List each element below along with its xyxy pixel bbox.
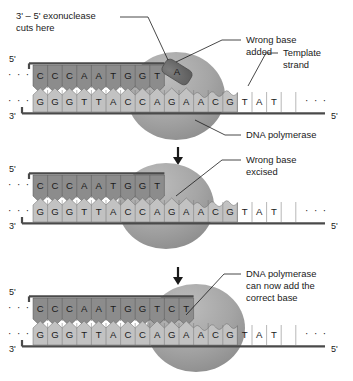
svg-text:C: C	[66, 70, 73, 81]
svg-text:A: A	[183, 329, 190, 340]
label-3prime-bottom-left: 3'	[9, 111, 16, 121]
new-strand-letters-panel-1: C C C A A T G G T	[37, 70, 160, 81]
svg-text:A: A	[110, 329, 117, 340]
panel-wrong-base-added: A C C C A A T G G T G G G T T A C C A G …	[0, 0, 353, 148]
svg-text:A: A	[256, 96, 263, 107]
svg-text:C: C	[212, 96, 219, 107]
left-ellipsis-top: · · ·	[8, 69, 31, 80]
svg-text:C: C	[124, 329, 131, 340]
svg-text:T: T	[154, 303, 160, 314]
svg-text:A: A	[95, 70, 102, 81]
left-ellipsis-bottom: · · ·	[8, 95, 31, 106]
svg-text:G: G	[66, 329, 73, 340]
left-ellipsis-bottom: · · ·	[8, 205, 31, 216]
svg-text:C: C	[124, 206, 131, 217]
panel-wrong-base-excised: C C C A A T G G T G G G T T A C C A G A …	[0, 148, 353, 268]
svg-text:A: A	[256, 329, 263, 340]
svg-text:T: T	[110, 303, 116, 314]
exonuclease-callout-line1: 3' – 5' exonuclease	[16, 10, 96, 21]
right-ellipsis: · · ·	[305, 205, 328, 216]
svg-text:G: G	[51, 206, 58, 217]
svg-text:T: T	[81, 329, 87, 340]
template-strand-letters-panel-1: G G G T T A C C A G A A C G T A T	[37, 96, 277, 107]
right-ellipsis: · · ·	[305, 95, 328, 106]
svg-text:G: G	[37, 96, 44, 107]
svg-text:G: G	[139, 70, 146, 81]
wrong-base-callout-line2: added	[246, 46, 272, 57]
svg-text:C: C	[124, 96, 131, 107]
wrong-base-excised-callout-line1: Wrong base	[246, 154, 296, 165]
svg-text:G: G	[226, 329, 233, 340]
svg-text:A: A	[198, 96, 205, 107]
svg-text:G: G	[139, 303, 146, 314]
svg-text:A: A	[81, 303, 88, 314]
svg-text:G: G	[168, 96, 175, 107]
svg-text:G: G	[66, 96, 73, 107]
svg-text:C: C	[51, 303, 58, 314]
svg-text:A: A	[154, 206, 161, 217]
svg-text:T: T	[96, 329, 102, 340]
svg-text:G: G	[51, 96, 58, 107]
exonuclease-leader	[120, 17, 168, 60]
left-ellipsis-top: · · ·	[8, 302, 31, 313]
polymerase-adds-callout-line2: can now add the	[246, 280, 315, 291]
svg-text:G: G	[124, 70, 131, 81]
wrong-base-callout-line1: Wrong base	[246, 34, 296, 45]
svg-text:A: A	[198, 329, 205, 340]
wrong-base-excised-callout-line2: excised	[246, 166, 278, 177]
svg-text:G: G	[124, 303, 131, 314]
template-strand-callout-line2: strand	[283, 59, 309, 70]
svg-text:T: T	[242, 96, 248, 107]
template-strand-letters-panel-2: G G G T T A C C A G A A C G T A T	[37, 206, 277, 217]
svg-text:C: C	[168, 303, 175, 314]
left-ellipsis-bottom: · · ·	[8, 328, 31, 339]
svg-text:T: T	[242, 206, 248, 217]
svg-text:T: T	[81, 206, 87, 217]
svg-text:G: G	[37, 329, 44, 340]
svg-text:G: G	[168, 206, 175, 217]
wrong-base-letter: A	[174, 66, 181, 77]
svg-text:A: A	[95, 303, 102, 314]
svg-text:A: A	[154, 96, 161, 107]
svg-text:T: T	[271, 206, 277, 217]
label-5prime-bottom-right: 5'	[331, 111, 338, 121]
svg-text:A: A	[256, 206, 263, 217]
svg-text:C: C	[37, 180, 44, 191]
svg-text:T: T	[110, 180, 116, 191]
svg-text:T: T	[271, 96, 277, 107]
svg-text:G: G	[66, 206, 73, 217]
label-5prime-bottom-right: 5'	[331, 344, 338, 354]
label-5prime-bottom-right: 5'	[331, 221, 338, 231]
svg-text:C: C	[139, 206, 146, 217]
svg-text:G: G	[51, 329, 58, 340]
new-strand-letters-panel-2: C C C A A T G G T	[37, 180, 160, 191]
svg-text:A: A	[154, 329, 161, 340]
svg-text:T: T	[242, 329, 248, 340]
template-strand-leader	[248, 53, 278, 86]
panel-correct-base-added: C C C A A T G G T C T G G G T T A C C A …	[0, 268, 353, 381]
svg-text:C: C	[66, 303, 73, 314]
label-3prime-bottom-left: 3'	[9, 344, 16, 354]
dna-polymerase-callout-line1: DNA polymerase	[246, 129, 316, 140]
svg-text:G: G	[37, 206, 44, 217]
svg-text:C: C	[51, 180, 58, 191]
svg-text:C: C	[66, 180, 73, 191]
svg-text:G: G	[124, 180, 131, 191]
svg-text:T: T	[81, 96, 87, 107]
svg-text:A: A	[81, 70, 88, 81]
svg-text:A: A	[110, 206, 117, 217]
template-strand-callout-line1: Template	[283, 47, 321, 58]
svg-text:C: C	[37, 303, 44, 314]
exonuclease-callout-line2: cuts here	[16, 22, 55, 33]
label-5prime-top-left: 5'	[9, 164, 16, 174]
svg-text:C: C	[212, 329, 219, 340]
label-3prime-bottom-left: 3'	[9, 221, 16, 231]
svg-text:G: G	[226, 96, 233, 107]
svg-text:T: T	[154, 70, 160, 81]
polymerase-adds-callout-line3: correct base	[246, 292, 298, 303]
svg-text:G: G	[226, 206, 233, 217]
svg-text:T: T	[96, 206, 102, 217]
svg-text:T: T	[271, 329, 277, 340]
svg-text:C: C	[139, 96, 146, 107]
svg-text:C: C	[139, 329, 146, 340]
